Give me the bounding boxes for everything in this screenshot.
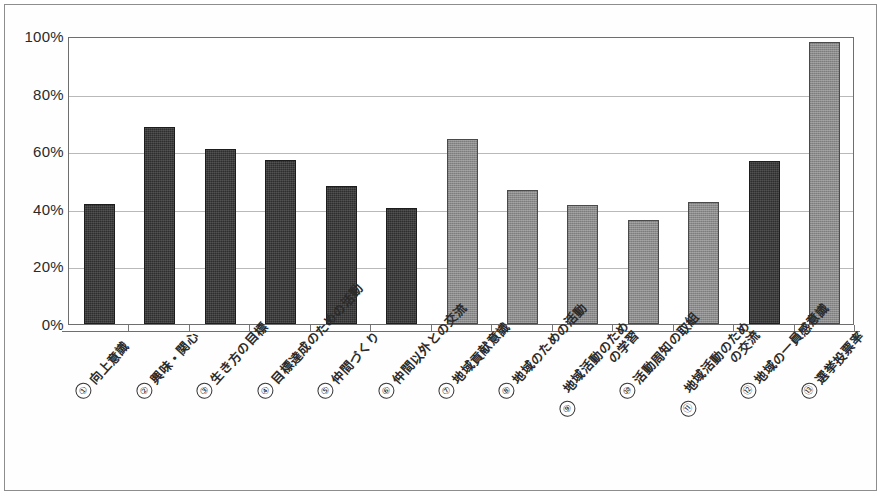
bar-slot: [84, 38, 115, 324]
bar-slot: [507, 38, 538, 324]
bar[interactable]: [84, 204, 115, 324]
bar[interactable]: [144, 127, 175, 324]
y-tick-label: 60%: [14, 144, 64, 159]
y-tick-label: 40%: [14, 202, 64, 217]
plot-area: [68, 37, 854, 325]
bar-slot: [567, 38, 598, 324]
category-text: 興味・関心: [148, 329, 202, 387]
bar[interactable]: [809, 42, 840, 324]
category-number: ⑦: [435, 379, 458, 402]
bar[interactable]: [688, 202, 719, 324]
category-text-line1: 興味・関心: [148, 329, 202, 387]
y-tick-label: 80%: [14, 87, 64, 102]
category-number: ⑤: [314, 379, 337, 402]
bar[interactable]: [386, 208, 417, 324]
bar[interactable]: [205, 149, 236, 324]
bar-slot: [205, 38, 236, 324]
bar-slot: [749, 38, 780, 324]
bar-slot: [447, 38, 478, 324]
bar-slot: [628, 38, 659, 324]
category-number: ③: [193, 379, 216, 402]
category-text-line1: 向上意識: [87, 339, 132, 387]
x-axis-category-label: ⑤仲間づくり: [314, 328, 383, 402]
bar[interactable]: [447, 139, 478, 324]
bar[interactable]: [265, 160, 296, 324]
bar-chart: 100%80%60%40%20%0% ①向上意識②興味・関心③生き方の目標④目標…: [0, 0, 881, 495]
category-number: ②: [133, 379, 156, 402]
bar[interactable]: [507, 190, 538, 324]
bar-slot: [265, 38, 296, 324]
category-number: ⑬: [798, 379, 821, 402]
x-axis-labels: ①向上意識②興味・関心③生き方の目標④目標達成のための活動⑤仲間づくり⑥仲間以外…: [0, 330, 881, 490]
category-number: ④: [254, 379, 277, 402]
category-text: 生き方の目標: [208, 320, 271, 387]
category-text: 仲間づくり: [329, 329, 383, 387]
x-axis-category-label: ⑬選挙投票率: [798, 328, 867, 402]
y-axis: 100%80%60%40%20%0%: [14, 28, 64, 328]
category-number: ⑪: [677, 397, 700, 420]
category-text-line1: 地域貢献意識: [450, 320, 513, 387]
bar-slot: [386, 38, 417, 324]
y-tick-label: 20%: [14, 259, 64, 274]
y-tick-label: 100%: [14, 29, 64, 44]
bar-slot: [809, 38, 840, 324]
category-number: ⑨: [556, 397, 579, 420]
category-text-line1: 生き方の目標: [208, 320, 271, 387]
bars-layer: [69, 38, 853, 324]
bar[interactable]: [749, 161, 780, 324]
bar-slot: [144, 38, 175, 324]
x-axis-category-label: ②興味・関心: [133, 328, 202, 402]
bar[interactable]: [628, 220, 659, 324]
category-text-line1: 選挙投票率: [813, 329, 867, 387]
category-number: ①: [72, 379, 95, 402]
category-text-line1: 仲間づくり: [329, 329, 383, 387]
category-text: 地域貢献意識: [450, 320, 513, 387]
x-axis-category-label: ①向上意識: [72, 338, 132, 402]
category-text: 向上意識: [87, 339, 132, 387]
category-number: ⑥: [375, 379, 398, 402]
bar-slot: [688, 38, 719, 324]
category-text: 選挙投票率: [813, 329, 867, 387]
